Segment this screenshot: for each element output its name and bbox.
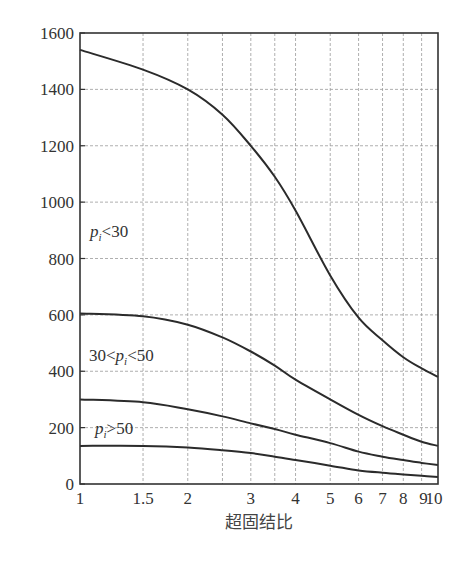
y-tick-label: 1000 [40, 193, 74, 212]
y-tick-label: 600 [49, 306, 75, 325]
plot-frame [80, 33, 438, 484]
curve-p_i<30 [80, 50, 438, 377]
x-tick-label: 5 [326, 489, 335, 508]
x-tick-label: 6 [354, 489, 363, 508]
x-tick-label: 8 [399, 489, 408, 508]
y-tick-label: 1600 [40, 24, 74, 43]
y-axis-ticks: 02004006008001000120014001600 [40, 24, 85, 494]
y-tick-label: 400 [49, 362, 75, 381]
x-tick-label: 1 [76, 489, 85, 508]
y-tick-label: 1400 [40, 80, 74, 99]
y-tick-label: 1200 [40, 137, 74, 156]
y-tick-label: 0 [66, 475, 75, 494]
curve-bottom-curve [80, 446, 438, 477]
x-tick-label: 3 [247, 489, 256, 508]
annotation-pi-between-30-50: 30<pi<50 [89, 346, 154, 367]
data-curves [80, 50, 438, 477]
x-tick-label: 4 [291, 489, 300, 508]
y-tick-label: 200 [49, 419, 75, 438]
x-axis-ticks: 11.52345678910 [76, 489, 443, 508]
chart: 02004006008001000120014001600 11.5234567… [0, 0, 475, 568]
y-tick-label: 800 [49, 250, 75, 269]
x-tick-label: 2 [184, 489, 193, 508]
curve-p_i>50 [80, 399, 438, 465]
x-tick-label: 10 [426, 489, 443, 508]
annotation-pi-gt-50: pi>50 [94, 419, 133, 440]
x-axis-label: 超固结比 [225, 512, 293, 532]
x-tick-label: 1.5 [132, 489, 153, 508]
grid-lines [80, 33, 438, 484]
x-tick-label: 7 [378, 489, 387, 508]
annotation-pi-lt-30: pi<30 [89, 222, 128, 243]
